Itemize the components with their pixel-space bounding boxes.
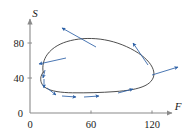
direction-arrows-group [39, 28, 178, 97]
x-tick-label-0: 0 [27, 119, 32, 130]
trajectory-curve-group [41, 38, 154, 92]
axes-group [28, 19, 173, 114]
y-tick-label-40: 40 [14, 73, 25, 84]
x-tick-label-60: 60 [86, 119, 97, 130]
axis-titles-group: F S [32, 7, 181, 112]
x-tick-label-120: 120 [144, 119, 160, 130]
direction-arrow-7 [84, 96, 99, 97]
y-axis-label: S [32, 7, 38, 19]
direction-arrow-1 [62, 28, 96, 47]
closed-orbit-curve [41, 38, 154, 92]
direction-arrow-6 [62, 96, 76, 97]
y-tick-label-80: 80 [14, 38, 25, 49]
y-tick-label-0: 0 [18, 108, 23, 119]
direction-arrow-10 [152, 67, 178, 75]
tick-labels-group: 0 60 120 0 40 80 [14, 38, 160, 130]
x-axis-label: F [174, 100, 182, 112]
phase-plane-figure: 0 60 120 0 40 80 F S [0, 0, 195, 137]
direction-arrow-2 [39, 58, 66, 64]
direction-arrow-9 [133, 43, 148, 65]
phase-plane-svg: 0 60 120 0 40 80 F S [0, 0, 195, 137]
